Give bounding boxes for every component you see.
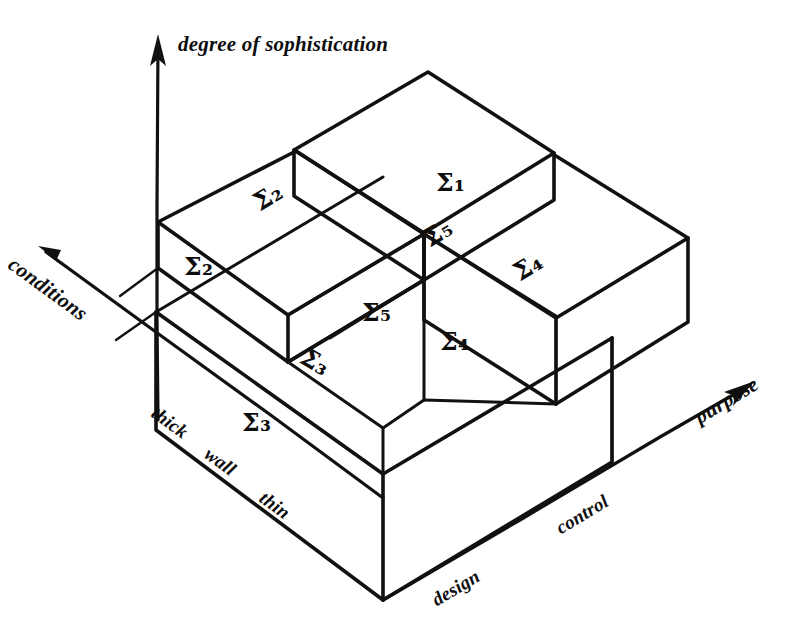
diagram-linework	[0, 0, 796, 632]
block-label-sigma4-face: Σ₄	[440, 327, 469, 356]
vertical-axis-label: degree of sophistication	[178, 32, 388, 57]
block-label-sigma1-face: Σ₁	[436, 168, 465, 197]
block-sigma5	[288, 234, 556, 362]
block-label-sigma3-base: Σ₃	[242, 408, 271, 437]
block-label-sigma2-face: Σ₂	[184, 252, 213, 281]
diagram-canvas: degree of sophistication conditions thic…	[0, 0, 796, 632]
base-slab	[156, 177, 612, 600]
arrow-up-left-icon	[38, 246, 66, 268]
block-label-sigma5-face: Σ₅	[362, 298, 391, 327]
